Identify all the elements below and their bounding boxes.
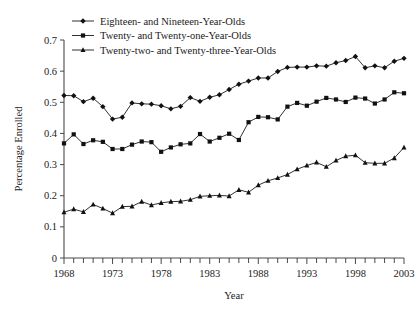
data-point-marker bbox=[80, 18, 85, 23]
legend-item[interactable]: Twenty-two- and Twenty-three-Year-Olds bbox=[72, 45, 276, 56]
data-point-marker bbox=[285, 172, 290, 177]
data-point-marker bbox=[227, 132, 231, 136]
data-point-marker bbox=[208, 139, 212, 143]
data-point-marker bbox=[256, 115, 260, 119]
data-point-marker bbox=[91, 202, 96, 207]
data-point-marker bbox=[275, 69, 280, 74]
data-point-marker bbox=[236, 187, 241, 192]
data-point-marker bbox=[72, 132, 76, 136]
data-point-marker bbox=[246, 120, 250, 124]
x-axis-tick-label: 1978 bbox=[151, 268, 172, 279]
data-point-marker bbox=[236, 82, 241, 87]
data-point-marker bbox=[401, 56, 406, 61]
data-point-marker bbox=[324, 96, 328, 100]
data-point-marker bbox=[382, 65, 387, 70]
data-point-marker bbox=[178, 142, 182, 146]
data-point-marker bbox=[101, 140, 105, 144]
series-1 bbox=[61, 54, 406, 122]
series-line bbox=[64, 57, 404, 120]
x-axis-tick-label: 1968 bbox=[54, 268, 75, 279]
data-point-marker bbox=[198, 132, 202, 136]
data-point-marker bbox=[333, 60, 338, 65]
data-point-marker bbox=[294, 64, 299, 69]
data-point-marker bbox=[285, 65, 290, 70]
y-axis-tick-label: 0.1 bbox=[44, 221, 57, 232]
data-point-marker bbox=[81, 99, 86, 104]
data-point-marker bbox=[344, 100, 348, 104]
enrollment-line-chart: 00.10.20.30.40.50.60.7196819731978198319… bbox=[0, 0, 416, 309]
x-axis-tick-label: 1973 bbox=[102, 268, 123, 279]
data-point-marker bbox=[120, 147, 124, 151]
data-point-marker bbox=[207, 95, 212, 100]
data-point-marker bbox=[256, 75, 261, 80]
data-point-marker bbox=[392, 90, 396, 94]
data-point-marker bbox=[285, 105, 289, 109]
data-point-marker bbox=[120, 115, 125, 120]
data-point-marker bbox=[140, 139, 144, 143]
data-point-marker bbox=[62, 141, 66, 145]
data-point-marker bbox=[266, 115, 270, 119]
y-axis-tick-label: 0.3 bbox=[44, 159, 57, 170]
data-point-marker bbox=[159, 150, 163, 154]
data-point-marker bbox=[265, 75, 270, 80]
data-point-marker bbox=[237, 138, 241, 142]
data-point-marker bbox=[139, 101, 144, 106]
x-axis-tick-label: 1983 bbox=[199, 268, 220, 279]
data-point-marker bbox=[197, 99, 202, 104]
legend-item-label: Twenty-two- and Twenty-three-Year-Olds bbox=[100, 45, 276, 56]
legend-item-label: Twenty- and Twenty-one-Year-Olds bbox=[100, 30, 251, 41]
data-point-marker bbox=[188, 141, 192, 145]
data-point-marker bbox=[169, 145, 173, 149]
legend-item[interactable]: Twenty- and Twenty-one-Year-Olds bbox=[72, 30, 251, 41]
data-point-marker bbox=[295, 101, 299, 105]
data-point-marker bbox=[149, 101, 154, 106]
data-point-marker bbox=[353, 152, 358, 157]
data-point-marker bbox=[334, 97, 338, 101]
data-point-marker bbox=[158, 103, 163, 108]
legend-item[interactable]: Eighteen- and Nineteen-Year-Olds bbox=[72, 16, 245, 27]
y-axis-tick-label: 0.6 bbox=[44, 66, 57, 77]
data-point-marker bbox=[382, 97, 386, 101]
data-point-marker bbox=[324, 63, 329, 68]
series-line bbox=[64, 92, 404, 151]
x-axis-tick-label: 1998 bbox=[345, 268, 366, 279]
chart-legend: Eighteen- and Nineteen-Year-OldsTwenty- … bbox=[72, 16, 276, 56]
data-point-marker bbox=[343, 58, 348, 63]
series-2 bbox=[62, 90, 406, 154]
legend-item-label: Eighteen- and Nineteen-Year-Olds bbox=[100, 16, 245, 27]
data-point-marker bbox=[402, 145, 407, 150]
data-point-marker bbox=[91, 138, 95, 142]
data-point-marker bbox=[392, 58, 397, 63]
data-point-marker bbox=[372, 63, 377, 68]
data-point-marker bbox=[363, 160, 368, 165]
data-point-marker bbox=[314, 100, 318, 104]
data-point-marker bbox=[373, 101, 377, 105]
y-axis-tick-label: 0.5 bbox=[44, 97, 57, 108]
data-point-marker bbox=[168, 106, 173, 111]
data-point-marker bbox=[304, 64, 309, 69]
data-point-marker bbox=[71, 206, 76, 211]
series-3 bbox=[62, 145, 407, 216]
data-point-marker bbox=[71, 93, 76, 98]
y-axis-tick-label: 0.7 bbox=[44, 35, 57, 46]
data-point-marker bbox=[363, 96, 367, 100]
data-point-marker bbox=[246, 78, 251, 83]
data-point-marker bbox=[139, 199, 144, 204]
data-point-marker bbox=[305, 104, 309, 108]
x-axis-title: Year bbox=[224, 290, 244, 301]
data-point-marker bbox=[81, 33, 85, 37]
y-axis-tick-label: 0.2 bbox=[44, 190, 57, 201]
y-axis-tick-label: 0 bbox=[52, 253, 57, 264]
data-point-marker bbox=[217, 92, 222, 97]
data-point-marker bbox=[226, 87, 231, 92]
data-point-marker bbox=[314, 63, 319, 68]
data-point-marker bbox=[129, 100, 134, 105]
data-point-marker bbox=[276, 117, 280, 121]
x-axis-tick-label: 1993 bbox=[296, 268, 317, 279]
x-axis-tick-label: 1988 bbox=[248, 268, 269, 279]
y-axis-title: Percentage Enrolled bbox=[13, 106, 24, 192]
data-point-marker bbox=[314, 160, 319, 165]
x-axis-tick-label: 2003 bbox=[394, 268, 415, 279]
data-point-marker bbox=[130, 143, 134, 147]
y-axis-tick-label: 0.4 bbox=[44, 128, 58, 139]
